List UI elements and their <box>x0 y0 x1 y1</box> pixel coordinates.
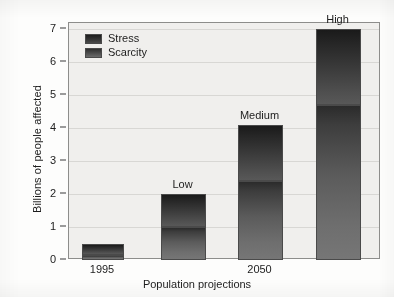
bar-caption-low: Low <box>172 178 192 190</box>
bar-caption-high: High <box>326 13 349 25</box>
chart-overlay: LowMediumHigh19952050 <box>0 0 394 297</box>
x-axis-label: Population projections <box>0 278 394 290</box>
x-tick-label: 2050 <box>247 263 271 275</box>
x-tick-label: 1995 <box>90 263 114 275</box>
bar-caption-medium: Medium <box>240 109 279 121</box>
chart-page: Billions of people affected 01234567 Str… <box>0 0 394 297</box>
